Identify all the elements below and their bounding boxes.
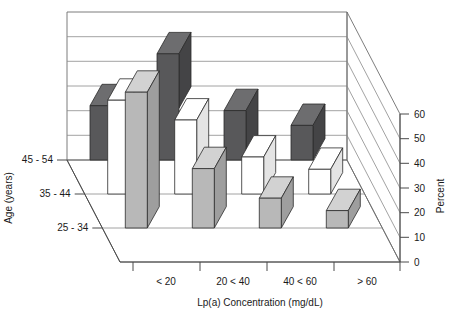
percent-axis xyxy=(400,114,409,262)
ztick-25-34: 25 - 34 xyxy=(57,222,89,233)
chart-container: 60 50 40 30 20 10 0 < 20 20 < 40 40 < 60… xyxy=(0,0,459,316)
bar-25-34-lt20 xyxy=(125,71,159,228)
z-axis-title: Age (years) xyxy=(3,172,14,224)
right-wall xyxy=(347,12,400,262)
y-axis-title: Percent xyxy=(435,179,446,214)
xtick-20-40: 20 < 40 xyxy=(216,276,250,287)
xtick-lt-20: < 20 xyxy=(156,276,176,287)
percent-tick-labels: 60 50 40 30 20 10 0 xyxy=(414,109,426,268)
ytick-20: 20 xyxy=(414,207,426,218)
ytick-60: 60 xyxy=(414,109,426,120)
ytick-10: 10 xyxy=(414,232,426,243)
ztick-45-54: 45 - 54 xyxy=(22,154,54,165)
x-axis-title: Lp(a) Concentration (mg/dL) xyxy=(197,297,323,308)
xtick-gt-60: > 60 xyxy=(357,276,377,287)
xtick-40-60: 40 < 60 xyxy=(283,276,317,287)
ztick-35-44: 35 - 44 xyxy=(40,188,72,199)
ytick-30: 30 xyxy=(414,183,426,194)
three-d-bar-chart: 60 50 40 30 20 10 0 < 20 20 < 40 40 < 60… xyxy=(0,0,459,316)
category-tick-labels: < 20 20 < 40 40 < 60 > 60 xyxy=(156,276,377,287)
category-axis xyxy=(120,262,400,271)
ytick-0: 0 xyxy=(414,257,420,268)
bar-25-34-gt60 xyxy=(326,189,360,228)
bar-25-34-20to40 xyxy=(192,147,226,228)
ytick-40: 40 xyxy=(414,158,426,169)
ytick-50: 50 xyxy=(414,133,426,144)
